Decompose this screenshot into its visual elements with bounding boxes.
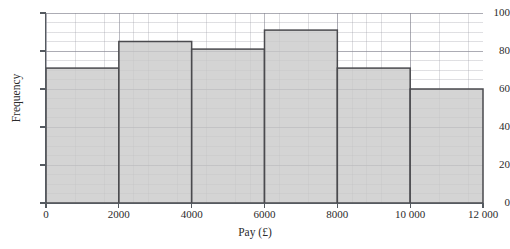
x-axis-tick-label: 4000 bbox=[181, 209, 203, 220]
y-axis-tick-label: 20 bbox=[476, 159, 510, 170]
histogram-bar bbox=[337, 68, 410, 203]
y-axis-tick-label: 60 bbox=[476, 83, 510, 94]
x-axis-tick-label: 6000 bbox=[254, 209, 276, 220]
y-axis-tick-label: 40 bbox=[476, 121, 510, 132]
y-axis-tick-label: 80 bbox=[476, 45, 510, 56]
x-axis-tick-label: 2000 bbox=[108, 209, 130, 220]
histogram-bar bbox=[119, 42, 192, 204]
histogram-bar bbox=[410, 89, 483, 203]
x-axis-title: Pay (£) bbox=[0, 226, 510, 238]
y-axis-tick bbox=[40, 126, 46, 127]
histogram-figure: 020406080100 0200040006000800010 00012 0… bbox=[0, 0, 510, 249]
y-axis-tick bbox=[40, 50, 46, 51]
histogram-bar bbox=[46, 68, 119, 203]
x-axis-tick-label: 0 bbox=[43, 209, 49, 220]
histogram-bar bbox=[265, 30, 338, 203]
y-axis-tick-label: 100 bbox=[476, 7, 510, 18]
y-axis-tick bbox=[40, 164, 46, 165]
y-axis-title: Frequency bbox=[10, 38, 22, 158]
x-axis-tick-label: 8000 bbox=[326, 209, 348, 220]
x-axis-tick-label: 12 000 bbox=[468, 209, 498, 220]
histogram-bar bbox=[192, 49, 265, 203]
y-axis-tick bbox=[40, 12, 46, 13]
y-axis-spine bbox=[45, 12, 46, 204]
y-axis-tick-label: 0 bbox=[476, 197, 510, 208]
plot-area bbox=[46, 13, 483, 203]
histogram-bars bbox=[46, 13, 483, 203]
y-axis-tick bbox=[40, 88, 46, 89]
x-axis-tick-label: 10 000 bbox=[395, 209, 425, 220]
